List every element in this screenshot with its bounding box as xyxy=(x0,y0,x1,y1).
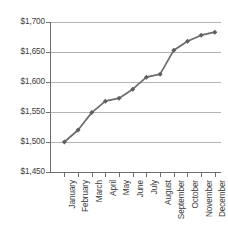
x-axis-tick-label: April xyxy=(109,180,118,196)
x-axis-tick-label: December xyxy=(218,180,227,217)
x-axis-tick-mark xyxy=(215,173,216,177)
gridline xyxy=(50,82,221,83)
x-axis-tick-label: January xyxy=(68,180,77,208)
x-axis-tick-mark xyxy=(105,173,106,177)
x-axis-tick-mark xyxy=(146,173,147,177)
line-chart: $1,450$1,500$1,550$1,600$1,650$1,700 Jan… xyxy=(0,0,228,234)
y-axis-tick-mark xyxy=(46,22,51,23)
x-axis-tick-label: February xyxy=(81,180,90,212)
x-axis-tick-label: March xyxy=(95,180,104,202)
x-axis-tick-label: August xyxy=(164,180,173,205)
x-axis-tick-mark xyxy=(174,173,175,177)
x-axis-tick-mark xyxy=(78,173,79,177)
x-axis-tick-mark xyxy=(119,173,120,177)
x-axis-tick-label: September xyxy=(177,180,186,219)
y-axis-tick-label: $1,700 xyxy=(1,17,45,26)
x-axis-tick-label: July xyxy=(150,180,159,194)
x-axis-tick-label: October xyxy=(191,180,200,208)
x-axis-tick-mark xyxy=(64,173,65,177)
gridline xyxy=(50,142,221,143)
gridline xyxy=(50,112,221,113)
x-axis-tick-mark xyxy=(133,173,134,177)
x-axis-tick-mark xyxy=(187,173,188,177)
x-axis-tick-mark xyxy=(92,173,93,177)
y-axis-line xyxy=(50,22,51,172)
x-axis-tick-mark xyxy=(201,173,202,177)
x-axis-tick-label: November xyxy=(205,180,214,217)
y-axis-tick-mark xyxy=(46,82,51,83)
y-axis-tick-label: $1,500 xyxy=(1,137,45,146)
x-axis-line xyxy=(50,172,221,173)
y-axis-tick-label: $1,650 xyxy=(1,47,45,56)
x-axis-tick-label: June xyxy=(136,180,145,197)
y-axis-tick-mark xyxy=(46,142,51,143)
y-axis-tick-mark xyxy=(46,112,51,113)
gridline xyxy=(50,22,221,23)
plot-area xyxy=(50,22,221,172)
x-axis-tick-label: May xyxy=(122,180,131,195)
y-axis-tick-label: $1,450 xyxy=(1,167,45,176)
y-axis-tick-label: $1,550 xyxy=(1,107,45,116)
y-axis-tick-label: $1,600 xyxy=(1,77,45,86)
y-axis-labels: $1,450$1,500$1,550$1,600$1,650$1,700 xyxy=(0,0,45,234)
x-axis-tick-mark xyxy=(160,173,161,177)
y-axis-tick-mark xyxy=(46,172,51,173)
gridline xyxy=(50,52,221,53)
y-axis-tick-mark xyxy=(46,52,51,53)
